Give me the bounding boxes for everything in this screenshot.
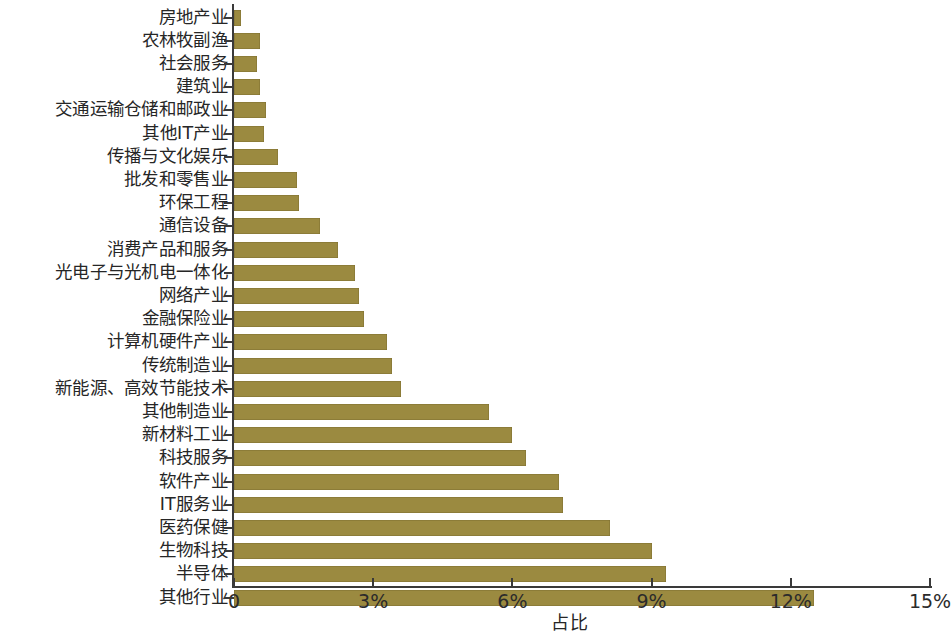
- bar-container: [234, 172, 297, 188]
- y-axis-tick: [224, 17, 234, 19]
- bar: [234, 33, 260, 49]
- chart-row: 新材料工业: [0, 424, 950, 447]
- category-label: 新能源、高效节能技术: [55, 380, 228, 398]
- category-label: 环保工程: [159, 194, 228, 212]
- bar: [234, 149, 278, 165]
- chart-row: 交通运输仓储和邮政业: [0, 99, 950, 122]
- chart-row: 环保工程: [0, 192, 950, 215]
- bar: [234, 497, 563, 513]
- y-axis-tick: [224, 133, 234, 135]
- category-label: 光电子与光机电一体化: [55, 264, 228, 282]
- y-axis-tick: [224, 550, 234, 552]
- chart-row: 批发和零售业: [0, 168, 950, 191]
- bar: [234, 195, 299, 211]
- chart-row: 网络产业: [0, 284, 950, 307]
- category-label: 建筑业: [176, 78, 228, 96]
- chart-row: 软件产业: [0, 470, 950, 493]
- bar-container: [234, 126, 264, 142]
- x-axis-title-text: 占比: [551, 614, 589, 632]
- bar-container: [234, 520, 610, 536]
- chart-row: 生物科技: [0, 540, 950, 563]
- y-axis-tick: [224, 86, 234, 88]
- chart-row: IT服务业: [0, 493, 950, 516]
- bar-container: [234, 474, 559, 490]
- category-label: 传播与文化娱乐: [107, 148, 228, 166]
- chart-row: 建筑业: [0, 76, 950, 99]
- bar: [234, 520, 610, 536]
- category-label: 医药保健: [159, 519, 228, 537]
- bar-container: [234, 33, 260, 49]
- bar-container: [234, 242, 338, 258]
- bar-container: [234, 311, 364, 327]
- y-axis-tick: [224, 481, 234, 483]
- bar: [234, 126, 264, 142]
- chart-row: 光电子与光机电一体化: [0, 261, 950, 284]
- category-label: 其他制造业: [142, 403, 229, 421]
- bar: [234, 381, 401, 397]
- x-axis-tick: [929, 578, 931, 587]
- bar-container: [234, 288, 359, 304]
- category-label: 软件产业: [159, 473, 228, 491]
- category-label: 金融保险业: [142, 310, 229, 328]
- bar: [234, 218, 320, 234]
- category-label: 网络产业: [159, 287, 228, 305]
- y-axis-tick: [224, 202, 234, 204]
- category-label: 房地产业: [159, 9, 228, 27]
- chart-row: 半导体: [0, 563, 950, 586]
- y-axis-tick: [224, 179, 234, 181]
- category-label: 生物科技: [159, 542, 228, 560]
- category-label: 传统制造业: [142, 357, 229, 375]
- bar-container: [234, 265, 355, 281]
- bar: [234, 288, 359, 304]
- y-axis-tick: [224, 457, 234, 459]
- chart-row: 传播与文化娱乐: [0, 145, 950, 168]
- bar-container: [234, 218, 320, 234]
- bar: [234, 10, 241, 26]
- category-label: 科技服务: [159, 450, 228, 468]
- x-axis-tick-label: 15%: [909, 592, 951, 611]
- y-axis-tick: [224, 318, 234, 320]
- y-axis-tick: [224, 527, 234, 529]
- bar: [234, 265, 355, 281]
- bar: [234, 358, 392, 374]
- y-axis-tick: [224, 40, 234, 42]
- x-axis-tick: [511, 578, 513, 587]
- x-axis-tick-label: 6%: [497, 592, 527, 611]
- bar: [234, 543, 652, 559]
- x-axis-tick: [790, 578, 792, 587]
- y-axis-tick: [224, 63, 234, 65]
- chart-row: 金融保险业: [0, 308, 950, 331]
- y-axis-tick: [224, 272, 234, 274]
- category-label: 农林牧副渔: [142, 32, 229, 50]
- bar-container: [234, 102, 266, 118]
- y-axis-tick: [224, 156, 234, 158]
- y-axis-tick: [224, 434, 234, 436]
- category-label: 社会服务: [159, 55, 228, 73]
- chart-row: 科技服务: [0, 447, 950, 470]
- category-label: 其他IT产业: [142, 125, 228, 143]
- chart-row: 其他IT产业: [0, 122, 950, 145]
- chart-row: 计算机硬件产业: [0, 331, 950, 354]
- y-axis-tick: [224, 388, 234, 390]
- bar-container: [234, 334, 387, 350]
- x-axis-tick-label: 3%: [358, 592, 388, 611]
- chart-row: 通信设备: [0, 215, 950, 238]
- y-axis-tick: [224, 109, 234, 111]
- chart-row: 其他制造业: [0, 400, 950, 423]
- y-axis-tick: [224, 225, 234, 227]
- y-axis-tick: [224, 295, 234, 297]
- bar: [234, 566, 666, 582]
- y-axis-tick: [224, 249, 234, 251]
- bar: [234, 102, 266, 118]
- x-axis-tick: [651, 578, 653, 587]
- bar-container: [234, 149, 278, 165]
- bar-container: [234, 427, 512, 443]
- bar: [234, 474, 559, 490]
- bar: [234, 404, 489, 420]
- bar-container: [234, 404, 489, 420]
- bar-container: [234, 79, 260, 95]
- bar: [234, 334, 387, 350]
- bar-container: [234, 195, 299, 211]
- x-axis-tick: [372, 578, 374, 587]
- x-axis-tick-label: 0: [228, 592, 240, 611]
